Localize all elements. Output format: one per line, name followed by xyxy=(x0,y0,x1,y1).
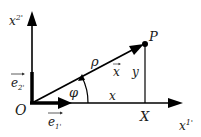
arrow-icon xyxy=(129,44,144,55)
point-label: P xyxy=(148,29,158,44)
arrow-right-icon xyxy=(168,98,183,108)
arrow-up-icon xyxy=(27,11,37,26)
position-vector-label: x xyxy=(113,63,121,79)
horizontal-axis-label: x1' xyxy=(179,118,193,133)
origin-label: O xyxy=(15,102,27,118)
polar-coordinate-diagram: x2' ρ P e2' O e1' φ x y x X x1' xyxy=(0,0,201,137)
y-component-label: y xyxy=(131,65,139,79)
svg-text:x: x xyxy=(113,65,120,79)
angle-label: φ xyxy=(69,85,79,100)
radius-label: ρ xyxy=(90,54,99,69)
svg-text:e1': e1' xyxy=(48,115,62,131)
vertical-axis-label: x2' xyxy=(9,13,23,28)
foot-point-label: X xyxy=(139,109,150,124)
point-p xyxy=(142,41,148,47)
svg-text:e2': e2' xyxy=(11,76,25,92)
unit-vector-e2-label: e2' xyxy=(11,73,25,93)
unit-vector-e1-label: e1' xyxy=(48,112,63,132)
x-component-label: x xyxy=(109,89,116,103)
unit-vector-e1 xyxy=(30,97,72,109)
